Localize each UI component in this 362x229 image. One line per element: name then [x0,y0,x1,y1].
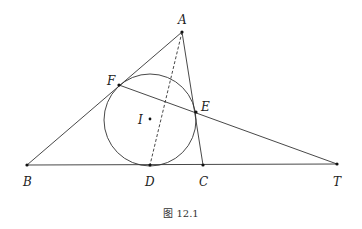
point-D [148,163,151,166]
label-F: F [106,74,116,88]
label-T: T [333,175,342,189]
point-B [25,163,28,166]
segment-AB [27,32,182,165]
segment-BT [27,164,337,165]
label-A: A [177,13,187,27]
segment-AD-dashed [150,32,182,165]
segment-AC [182,32,203,165]
label-D: D [144,175,155,189]
point-I [149,118,152,121]
geometry-diagram: A B C D E F I T 图 12.1 [0,0,362,229]
label-B: B [22,175,32,189]
figure-caption: 图 12.1 [163,208,198,219]
point-E [194,110,197,113]
point-C [201,163,204,166]
point-F [117,83,120,86]
segment-FT [119,85,337,164]
label-E: E [200,100,210,114]
label-C: C [199,175,208,189]
point-T [335,162,338,165]
point-A [180,30,183,33]
label-I: I [137,113,143,127]
